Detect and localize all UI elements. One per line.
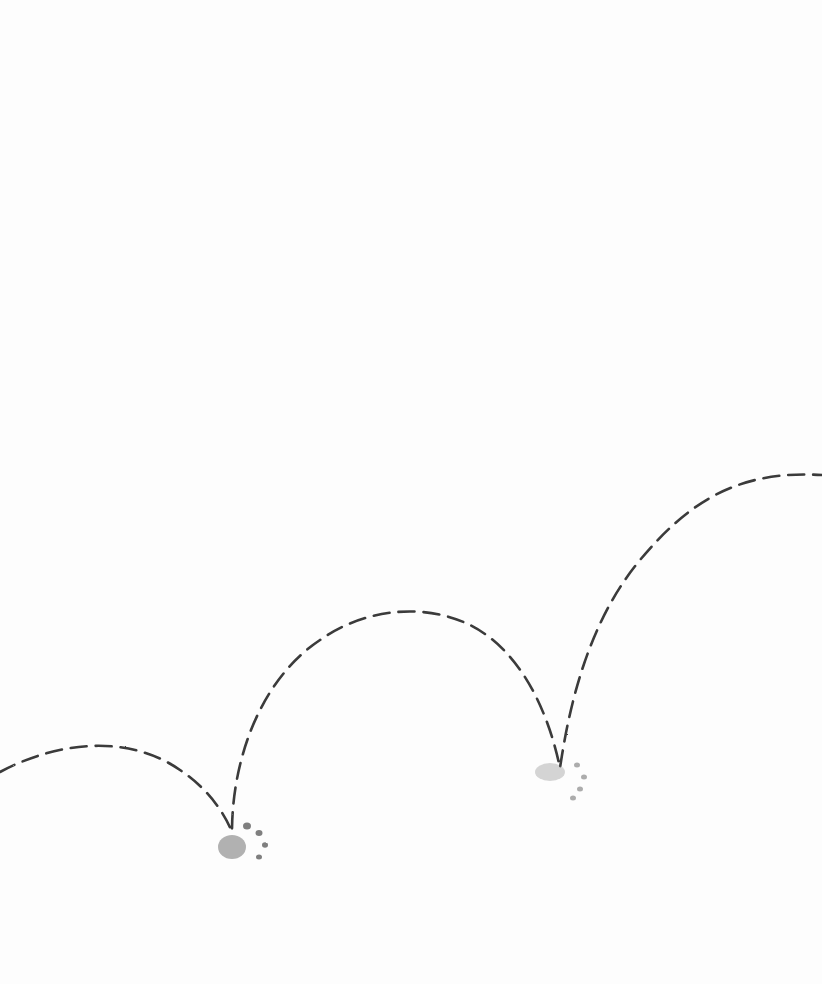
paw-print-icon	[218, 823, 268, 860]
paw-print-icon	[535, 763, 587, 801]
bounce-path-drawing	[0, 0, 822, 984]
dashed-trajectory	[0, 474, 822, 832]
illustration-canvas: dashed bouncing trajectory with two paw-…	[0, 0, 822, 984]
